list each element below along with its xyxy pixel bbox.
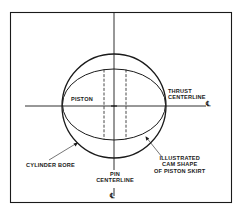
- thrust-centerline-label: THRUST CENTERLINE: [168, 88, 206, 101]
- diagram-canvas: [0, 0, 243, 217]
- pin-label-line2: CENTERLINE: [90, 177, 140, 183]
- thrust-label-line2: CENTERLINE: [168, 94, 206, 100]
- cylinder-bore-arrow-icon: [74, 143, 79, 147]
- cam-shape-label: ILLUSTRATED CAM SHAPE OF PISTON SKIRT: [154, 155, 205, 174]
- pin-centerline-label: PIN CENTERLINE: [90, 171, 140, 184]
- pin-centerline-symbol-icon: ℄: [110, 193, 115, 199]
- cylinder-bore-leader: [49, 143, 77, 160]
- cam-label-line3: OF PISTON SKIRT: [154, 168, 205, 174]
- cylinder-bore-label: CYLINDER BORE: [26, 162, 75, 168]
- thrust-centerline-symbol-icon: ℄: [206, 101, 211, 107]
- piston-label: PISTON: [71, 96, 93, 102]
